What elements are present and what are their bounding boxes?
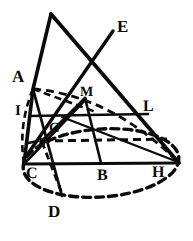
label-F: F	[38, 137, 47, 151]
label-L: L	[143, 99, 154, 115]
label-D: D	[48, 203, 60, 220]
label-E: E	[117, 18, 128, 35]
label-I: I	[15, 104, 21, 119]
label-C: C	[26, 166, 38, 182]
figure-canvas	[0, 0, 193, 241]
label-H: H	[152, 165, 164, 181]
label-B: B	[97, 168, 108, 184]
label-G: G	[49, 122, 60, 136]
label-A: A	[12, 68, 24, 85]
geometric-figure: A E M L I G F C B H D	[0, 0, 193, 241]
label-M: M	[80, 86, 93, 100]
